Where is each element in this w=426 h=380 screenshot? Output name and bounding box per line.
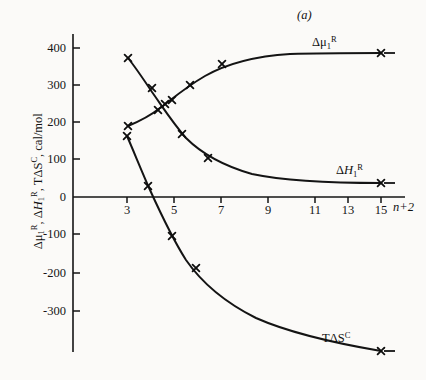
delta-symbol: Δ xyxy=(330,331,338,345)
subscript-1: 1 xyxy=(36,197,46,201)
marker-delta-mu xyxy=(125,50,385,130)
h-symbol: H xyxy=(344,163,353,177)
data-markers xyxy=(124,50,385,355)
x-tick-label: 7 xyxy=(207,203,235,218)
superscript-R: R xyxy=(331,34,337,44)
delta-symbol: Δ xyxy=(31,170,45,178)
x-tick-label: 3 xyxy=(113,203,141,218)
x-tick-label: 15 xyxy=(367,203,395,218)
x-tick-label: 5 xyxy=(160,203,188,218)
curve-label-delta-mu: Δμ1R xyxy=(312,34,337,51)
curve-label-t-delta-s: TΔSC xyxy=(322,330,350,346)
superscript-C: C xyxy=(345,330,351,340)
y-axis-ticks xyxy=(73,48,80,311)
delta-symbol: Δ xyxy=(31,210,45,218)
separator: , xyxy=(31,185,45,191)
superscript-R: R xyxy=(357,162,363,172)
superscript-R: R xyxy=(29,225,39,231)
x-tick-label: 9 xyxy=(254,203,282,218)
delta-symbol: Δ xyxy=(336,163,344,177)
y-axis-title: Δμ1R, ΔH1R, TΔSC, cal/mol xyxy=(28,66,46,296)
mu-symbol: μ xyxy=(31,234,45,241)
curve-delta-mu xyxy=(128,53,381,126)
x-tick-label: 11 xyxy=(301,203,329,218)
subscript-1: 1 xyxy=(36,230,46,234)
superscript-C: C xyxy=(29,157,39,163)
s-symbol: S xyxy=(31,163,45,170)
x-axis-title: n+2 xyxy=(393,200,414,215)
s-symbol: S xyxy=(338,331,345,345)
separator: , xyxy=(31,218,45,224)
y-tick-label: -300 xyxy=(26,304,66,319)
t-symbol: T xyxy=(322,331,330,345)
h-symbol: H xyxy=(31,201,45,210)
figure-panel: 400 300 200 100 0 -100 -200 -300 3 5 7 9… xyxy=(0,0,426,380)
t-symbol: T xyxy=(31,178,45,186)
x-tick-label: 13 xyxy=(334,203,362,218)
mu-symbol: μ xyxy=(320,35,327,49)
curve-label-delta-h: ΔH1R xyxy=(336,162,363,179)
y-axis-title-text: Δμ1R, ΔH1R, TΔSC, cal/mol xyxy=(31,113,45,249)
units-text: , cal/mol xyxy=(31,113,45,157)
superscript-R: R xyxy=(29,191,39,197)
y-tick-label: 400 xyxy=(34,41,66,56)
delta-symbol: Δ xyxy=(312,35,320,49)
panel-label: (a) xyxy=(297,8,312,23)
delta-symbol: Δ xyxy=(31,241,45,249)
